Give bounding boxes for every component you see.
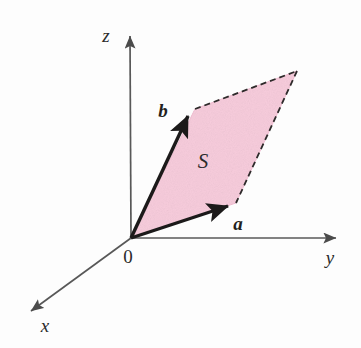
- diagram-svg: z y x 0 a b S: [0, 0, 361, 348]
- z-axis-label: z: [101, 25, 110, 46]
- origin-label: 0: [123, 246, 133, 267]
- vector-b-label: b: [158, 100, 168, 121]
- vector-a-label: a: [233, 213, 243, 234]
- y-axis-label: y: [324, 247, 335, 268]
- figure-canvas: z y x 0 a b S: [0, 0, 361, 348]
- z-axis-line: [130, 36, 131, 238]
- region-s-label: S: [198, 149, 209, 173]
- x-axis-label: x: [40, 315, 50, 336]
